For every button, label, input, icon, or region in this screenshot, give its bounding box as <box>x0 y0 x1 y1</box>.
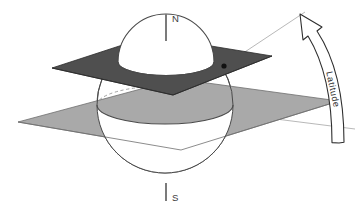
upper-latitude-plane <box>52 14 272 95</box>
diagram-canvas: N S Latitude <box>0 0 357 219</box>
latitude-arrow-shape <box>300 14 344 143</box>
latitude-diagram: N S Latitude <box>0 0 357 219</box>
surface-point-marker <box>221 63 226 68</box>
latitude-angle-arrow <box>300 14 344 143</box>
south-pole-label: S <box>172 192 178 203</box>
north-pole-label: N <box>172 13 179 24</box>
